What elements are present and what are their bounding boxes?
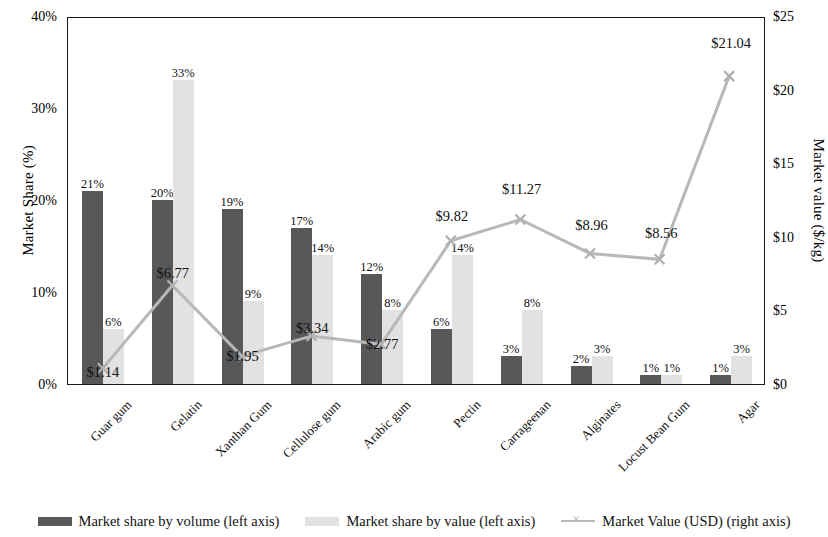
legend-item[interactable]: Market share by volume (left axis)	[38, 513, 280, 530]
y-axis-right-tick: $10	[773, 230, 794, 246]
bar-value-label: 14%	[442, 242, 482, 255]
y-axis-left-tick: 10%	[31, 285, 57, 301]
legend-item[interactable]: Market share by value (left axis)	[305, 513, 535, 530]
plot-area: 21%6%20%33%19%9%17%14%12%8%6%14%3%8%2%3%…	[67, 17, 765, 385]
bar-value-label: 3%	[722, 343, 762, 356]
chart-legend: Market share by volume (left axis)Market…	[0, 505, 828, 537]
bar-volume	[501, 356, 522, 384]
market-value-point-label: $21.04	[691, 36, 771, 51]
bar-value-label: 33%	[163, 67, 203, 80]
bar-value-label: 9%	[233, 288, 273, 301]
legend-swatch-line-icon	[561, 516, 595, 527]
bar-volume-label: 19%	[212, 196, 252, 209]
legend-label: Market share by value (left axis)	[346, 513, 535, 530]
bar-volume-label: 17%	[282, 215, 322, 228]
y-axis-left-tick: 30%	[31, 101, 57, 117]
bar-volume	[361, 274, 382, 384]
y-axis-right-tick: $5	[773, 303, 787, 319]
y-axis-right-tick: $0	[773, 377, 787, 393]
legend-swatch-val-icon	[305, 517, 339, 526]
y-axis-right-tick: $15	[773, 156, 794, 172]
market-value-marker	[655, 254, 665, 264]
market-value-marker	[724, 71, 734, 81]
market-value-point-label: $6.77	[133, 266, 213, 281]
bar-volume	[571, 366, 592, 384]
market-value-point-label: $11.27	[482, 182, 562, 197]
legend-label: Market Value (USD) (right axis)	[602, 513, 790, 530]
y-axis-left-tick: 40%	[31, 9, 57, 25]
bar-value	[592, 356, 613, 384]
market-value-marker	[585, 248, 595, 258]
bar-value-label: 3%	[582, 343, 622, 356]
bar-volume	[710, 375, 731, 384]
market-value-point-label: $1.95	[203, 349, 283, 364]
bar-volume-label: 12%	[352, 261, 392, 274]
y-axis-left-tick: 20%	[31, 193, 57, 209]
bar-volume	[82, 191, 103, 384]
bar-volume	[431, 329, 452, 384]
bar-value-label: 8%	[512, 297, 552, 310]
bar-value	[452, 255, 473, 384]
market-value-point-label: $8.96	[552, 218, 632, 233]
market-value-point-label: $8.56	[621, 226, 701, 241]
legend-item[interactable]: Market Value (USD) (right axis)	[561, 513, 790, 530]
bar-value-label: 8%	[373, 297, 413, 310]
y-axis-right-tick: $20	[773, 83, 794, 99]
bar-value	[661, 375, 682, 384]
market-value-point-label: $2.77	[342, 337, 422, 352]
y-axis-right-title: Market value ($/kg)	[810, 111, 827, 291]
bar-value	[243, 301, 264, 384]
bar-value	[731, 356, 752, 384]
market-value-marker	[515, 215, 525, 225]
bar-volume-label: 21%	[72, 178, 112, 191]
bar-value	[522, 310, 543, 384]
y-axis-left-tick: 0%	[38, 377, 57, 393]
y-axis-right-tick: $25	[773, 9, 794, 25]
bar-value-label: 1%	[652, 362, 692, 375]
market-value-point-label: $1.14	[63, 365, 143, 380]
bar-value-label: 14%	[303, 242, 343, 255]
legend-label: Market share by volume (left axis)	[79, 513, 280, 530]
bar-volume	[152, 200, 173, 384]
bar-value	[173, 80, 194, 384]
legend-swatch-vol-icon	[38, 517, 72, 526]
market-value-point-label: $9.82	[412, 209, 492, 224]
bar-value-label: 6%	[93, 316, 133, 329]
combo-chart: Market Share (%) Market value ($/kg) 0%1…	[0, 0, 828, 537]
bar-volume	[640, 375, 661, 384]
market-value-point-label: $3.34	[272, 321, 352, 336]
